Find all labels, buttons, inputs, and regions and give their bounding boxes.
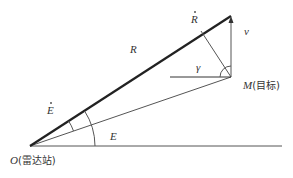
label-r: R: [130, 44, 137, 55]
label-gamma: γ: [196, 62, 200, 73]
r-dot-mark: [194, 11, 196, 13]
elevation-arc-e: [85, 111, 95, 146]
label-o-name: (雷达站): [18, 155, 56, 166]
line-o-to-m: [30, 77, 231, 146]
label-r-text: R: [130, 43, 137, 55]
elevation-rate-arc: [69, 121, 74, 131]
e-dot-mark: [50, 102, 52, 104]
label-e: E: [110, 131, 117, 142]
radar-geometry-diagram: R v R γ M(目标) E E O(雷达站): [0, 0, 293, 178]
label-e-text: E: [110, 130, 117, 142]
label-r-dot-text: R: [191, 13, 198, 25]
label-m-name: (目标): [252, 80, 280, 91]
label-o-symbol: O: [10, 154, 18, 166]
label-m-target: M(目标): [243, 80, 280, 91]
label-r-dot: R: [191, 14, 198, 25]
label-m-symbol: M: [243, 79, 252, 91]
label-e-dot: E: [47, 105, 54, 116]
range-line-r: [30, 16, 231, 146]
label-v: v: [244, 26, 249, 37]
label-gamma-text: γ: [196, 61, 200, 73]
perpendicular-line: [201, 31, 231, 77]
label-e-dot-text: E: [47, 104, 54, 116]
label-v-text: v: [244, 25, 249, 37]
label-o-radar: O(雷达站): [10, 155, 56, 166]
